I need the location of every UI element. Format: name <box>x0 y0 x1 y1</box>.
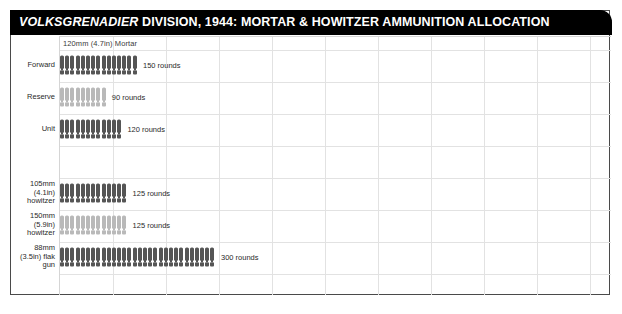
page-title: VOLKSGRENADIER DIVISION, 1944: MORTAR & … <box>19 16 550 29</box>
chart-row-flak-gun-88mm: 88mm(3.5in) flakgun300 rounds <box>11 241 611 273</box>
shell-round-icon <box>112 216 116 235</box>
shell-round-icon <box>96 88 100 107</box>
grid-hline-3 <box>60 146 611 147</box>
pictogram-bar-howitzer-150mm <box>60 216 127 235</box>
shell-round-icon <box>81 184 85 203</box>
row-label-line: gun <box>11 261 55 270</box>
shell-round-icon <box>60 120 64 139</box>
row-label-line: Reserve <box>11 93 55 102</box>
value-label-forward: 150 rounds <box>138 61 181 70</box>
value-label-howitzer-150mm: 125 rounds <box>128 221 171 230</box>
row-label-reserve: Reserve <box>11 93 55 102</box>
row-label-unit: Unit <box>11 125 55 134</box>
shell-round-icon <box>70 248 74 267</box>
shell-round-icon <box>96 248 100 267</box>
shell-round-icon <box>70 56 74 75</box>
shell-round-icon <box>70 120 74 139</box>
chart-area: 120mm (4.7in) Mortar Forward150 roundsRe… <box>11 36 611 295</box>
grid-hline-7 <box>60 274 611 275</box>
shell-round-icon <box>96 56 100 75</box>
chart-row-reserve: Reserve90 rounds <box>11 81 611 113</box>
shell-round-icon <box>81 120 85 139</box>
row-label-flak-gun-88mm: 88mm(3.5in) flakgun <box>11 244 55 270</box>
shell-round-icon <box>81 216 85 235</box>
shell-round-icon <box>174 248 178 267</box>
shell-round-icon <box>60 216 64 235</box>
shell-round-icon <box>96 184 100 203</box>
shell-round-icon <box>102 248 106 267</box>
shell-round-icon <box>76 120 80 139</box>
title-emphasis: VOLKSGRENADIER <box>19 15 138 29</box>
shell-round-icon <box>107 184 111 203</box>
shell-round-icon <box>96 216 100 235</box>
shell-round-icon <box>70 184 74 203</box>
shell-round-icon <box>86 216 90 235</box>
value-label-howitzer-105mm: 125 rounds <box>128 189 171 198</box>
shell-round-icon <box>76 248 80 267</box>
shell-round-icon <box>107 56 111 75</box>
shell-round-icon <box>76 88 80 107</box>
row-label-line: Unit <box>11 125 55 134</box>
shell-round-icon <box>60 56 64 75</box>
shell-round-icon <box>107 216 111 235</box>
shell-round-icon <box>159 248 163 267</box>
shell-round-icon <box>86 88 90 107</box>
shell-round-icon <box>117 184 121 203</box>
row-label-howitzer-105mm: 105mm(4.1in)howitzer <box>11 180 55 206</box>
shell-round-icon <box>91 120 95 139</box>
shell-round-icon <box>112 248 116 267</box>
shell-round-icon <box>127 56 131 75</box>
shell-round-icon <box>65 184 69 203</box>
shell-round-icon <box>148 248 152 267</box>
shell-round-icon <box>122 184 126 203</box>
row-label-line: Forward <box>11 61 55 70</box>
shell-round-icon <box>117 248 121 267</box>
chart-row-forward: Forward150 rounds <box>11 49 611 81</box>
shell-round-icon <box>153 248 157 267</box>
shell-round-icon <box>86 184 90 203</box>
series-caption: 120mm (4.7in) Mortar <box>63 39 137 48</box>
row-label-line: howitzer <box>11 197 55 206</box>
shell-round-icon <box>96 120 100 139</box>
shell-round-icon <box>91 88 95 107</box>
pictogram-bar-flak-gun-88mm <box>60 248 216 267</box>
shell-round-icon <box>70 216 74 235</box>
shell-round-icon <box>65 216 69 235</box>
chart-row-howitzer-105mm: 105mm(4.1in)howitzer125 rounds <box>11 177 611 209</box>
shell-round-icon <box>91 248 95 267</box>
shell-round-icon <box>205 248 209 267</box>
shell-round-icon <box>91 184 95 203</box>
shell-round-icon <box>81 56 85 75</box>
shell-round-icon <box>65 56 69 75</box>
shell-round-icon <box>81 248 85 267</box>
shell-round-icon <box>122 56 126 75</box>
shell-round-icon <box>70 88 74 107</box>
shell-round-icon <box>86 248 90 267</box>
shell-round-icon <box>179 248 183 267</box>
row-label-line: howitzer <box>11 229 55 238</box>
row-label-forward: Forward <box>11 61 55 70</box>
shell-round-icon <box>112 184 116 203</box>
shell-round-icon <box>210 248 214 267</box>
shell-round-icon <box>143 248 147 267</box>
shell-round-icon <box>60 248 64 267</box>
row-label-howitzer-150mm: 150mm(5.9in)howitzer <box>11 212 55 238</box>
shell-round-icon <box>133 248 137 267</box>
value-label-reserve: 90 rounds <box>107 93 145 102</box>
shell-round-icon <box>122 248 126 267</box>
shell-round-icon <box>133 56 137 75</box>
shell-round-icon <box>102 184 106 203</box>
pictogram-bar-reserve <box>60 88 107 107</box>
chart-row-howitzer-150mm: 150mm(5.9in)howitzer125 rounds <box>11 209 611 241</box>
shell-round-icon <box>122 216 126 235</box>
shell-round-icon <box>200 248 204 267</box>
chart-row-unit: Unit120 rounds <box>11 113 611 145</box>
shell-round-icon <box>86 56 90 75</box>
shell-round-icon <box>60 88 64 107</box>
infographic-panel: VOLKSGRENADIER DIVISION, 1944: MORTAR & … <box>10 10 610 295</box>
pictogram-bar-unit <box>60 120 122 139</box>
shell-round-icon <box>185 248 189 267</box>
shell-round-icon <box>127 248 131 267</box>
shell-round-icon <box>76 216 80 235</box>
shell-round-icon <box>81 88 85 107</box>
